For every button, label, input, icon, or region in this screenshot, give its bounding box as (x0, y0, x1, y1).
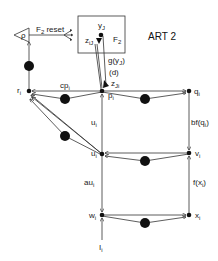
art2-diagram: ART 2 F2 yJ ziJ ρ F2 reset g(yJ) (d) zJi… (0, 0, 218, 261)
gain-node (60, 131, 70, 141)
y-j-node (99, 33, 104, 38)
reset-unit: ρ F2 reset (14, 25, 73, 42)
g-y-label: g(yJ) (108, 56, 125, 66)
svg-text:wi: wi (88, 211, 96, 221)
input-i-label: Ii (99, 243, 103, 253)
gain-node (140, 156, 150, 166)
f2-label: F2 (113, 35, 122, 45)
svg-text:pi: pi (108, 91, 114, 101)
svg-text:xi: xi (195, 211, 200, 221)
svg-text:vi: vi (195, 149, 200, 159)
d-label: (d) (109, 68, 119, 77)
f-x-label: f(xi) (193, 178, 206, 188)
svg-text:ui: ui (91, 149, 97, 159)
rho-symbol: ρ (21, 31, 26, 40)
y-j-label: yJ (98, 21, 105, 31)
svg-text:ri: ri (17, 86, 21, 96)
f2-reset-label: F2 reset (36, 25, 65, 35)
gain-node (140, 94, 150, 104)
gain-node (60, 94, 70, 104)
cp-label: cpi (60, 81, 70, 91)
diagram-title: ART 2 (148, 31, 176, 42)
gain-node (24, 61, 34, 71)
z-ji-label: zJi (111, 79, 119, 89)
z-ij-label: ziJ (85, 36, 93, 46)
svg-text:qi: qi (194, 87, 200, 97)
z-ij-synapse-icon (96, 38, 102, 44)
bf-q-label: bf(qi) (191, 118, 209, 128)
gain-node (140, 218, 150, 228)
f2-layer-box: F2 yJ ziJ (78, 16, 125, 53)
u-edge-label: ui (91, 118, 97, 128)
au-label: aui (84, 178, 94, 188)
